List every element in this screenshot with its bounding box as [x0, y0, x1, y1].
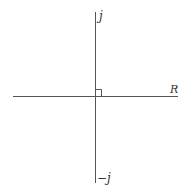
label-real-axis: R — [169, 83, 178, 96]
label-neg-j: −j — [97, 171, 111, 185]
complex-plane-diagram: j R −j — [0, 0, 180, 196]
right-angle-marker — [96, 90, 102, 97]
label-j: j — [96, 9, 103, 23]
